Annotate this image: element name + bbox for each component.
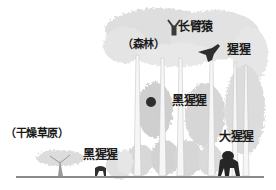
gorilla-label: 大猩猩	[219, 131, 254, 143]
orangutan-label: 猩猩	[227, 44, 250, 56]
chimpanzee-forest-label: 黑猩猩	[172, 95, 207, 107]
chimpanzee-savanna-label: 黑猩猩	[83, 149, 118, 161]
habitat-illustration: （干燥草原） （森林） 长臂猿 猩猩 黑猩猩 大猩猩 黑猩猩	[0, 0, 276, 190]
gibbon-label: 长臂猿	[178, 21, 213, 33]
forest-habitat-label: （森林）	[122, 39, 164, 50]
chimpanzee-tree-figure	[146, 97, 156, 107]
savanna-habitat-label: （干燥草原）	[5, 128, 68, 139]
forest-savanna-drawing	[0, 0, 276, 190]
ground-line	[16, 176, 264, 178]
chimpanzee-ground-figure	[95, 166, 106, 176]
acacia-tree	[36, 150, 84, 176]
